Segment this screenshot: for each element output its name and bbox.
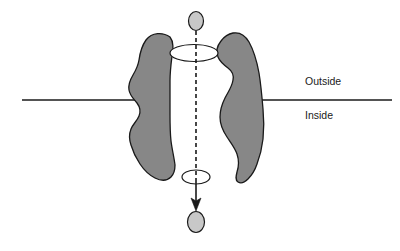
substrate-particle-outside	[189, 12, 204, 31]
membrane-channel-diagram: Outside Inside	[0, 0, 400, 251]
pore-opening-top	[170, 45, 218, 62]
substrate-particle-inside	[188, 212, 205, 233]
label-outside: Outside	[305, 75, 341, 87]
protein-subunit-left	[129, 34, 175, 181]
pore-lumen	[171, 50, 220, 172]
diagram-canvas: Outside Inside	[0, 0, 400, 251]
protein-subunit-right	[217, 33, 264, 183]
label-inside: Inside	[305, 109, 333, 121]
